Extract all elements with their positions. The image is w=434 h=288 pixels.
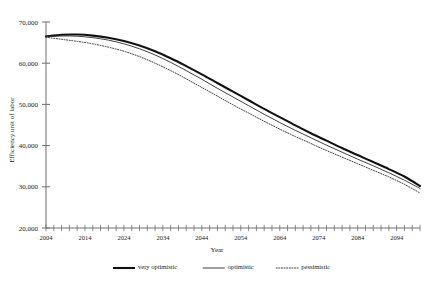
x-axis-title: Year [211, 246, 225, 254]
y-tick-label: 30,000 [19, 183, 39, 191]
legend-label-optimistic: optimistic [228, 263, 254, 270]
x-axis-tick-labels: 2004201420242034204420542064207420842094 [40, 234, 404, 241]
series-line-pessimistic [46, 37, 420, 193]
x-tick-label: 2054 [234, 234, 248, 241]
chart-container: 20,00030,00040,00050,00060,00070,000 200… [0, 0, 434, 288]
efficiency-unit-of-labor-line-chart: 20,00030,00040,00050,00060,00070,000 200… [0, 0, 434, 288]
x-tick-label: 2074 [312, 234, 326, 241]
x-axis-group: 2004201420242034204420542064207420842094 [40, 225, 421, 241]
y-axis-tick-labels: 20,00030,00040,00050,00060,00070,000 [19, 19, 39, 233]
y-tick-label: 70,000 [19, 19, 39, 27]
x-tick-label: 2094 [390, 234, 404, 241]
series-line-optimistic [46, 36, 420, 188]
y-axis-title: Efficiency unit of labor [8, 97, 16, 163]
data-series-group [46, 34, 420, 192]
y-tick-label: 40,000 [19, 142, 39, 150]
y-tick-label: 50,000 [19, 101, 39, 109]
x-tick-label: 2014 [78, 234, 92, 241]
legend-label-very-optimistic: very optimistic [138, 263, 177, 270]
y-tick-label: 60,000 [19, 60, 39, 68]
x-tick-label: 2004 [40, 234, 54, 241]
y-axis-group: 20,00030,00040,00050,00060,00070,000 [19, 19, 50, 233]
y-tick-label: 20,000 [19, 225, 39, 233]
legend-label-pessimistic: pessimistic [301, 263, 330, 270]
chart-legend: very optimisticoptimisticpessimistic [113, 263, 330, 270]
series-line-very-optimistic [46, 34, 420, 185]
x-tick-label: 2064 [273, 234, 287, 241]
x-tick-label: 2034 [156, 234, 170, 241]
x-tick-label: 2044 [195, 234, 209, 241]
x-tick-label: 2084 [351, 234, 365, 241]
x-tick-label: 2024 [117, 234, 131, 241]
